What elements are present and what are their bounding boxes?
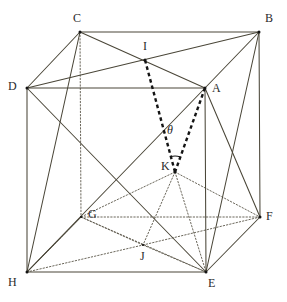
diagonal-J-F xyxy=(143,217,260,245)
vertex-label-A: A xyxy=(212,82,221,94)
vertex-dot-J xyxy=(142,244,144,246)
vertex-label-D: D xyxy=(8,80,17,92)
vertex-label-J: J xyxy=(140,250,145,262)
solid-diagonal-group xyxy=(27,32,260,272)
diagonal-G-J xyxy=(81,217,143,245)
vertex-label-H: H xyxy=(8,276,17,288)
vertex-label-F: F xyxy=(266,210,273,222)
edge-A-B xyxy=(205,32,259,88)
ray-A-K xyxy=(175,88,205,172)
vertex-dot-B xyxy=(258,31,261,34)
diagonal-C-H xyxy=(27,32,80,272)
vertex-dot-G xyxy=(80,216,82,218)
edge-C-D xyxy=(27,32,80,88)
vertex-label-B: B xyxy=(265,12,273,24)
vertex-label-K: K xyxy=(161,160,170,172)
diagonal-K-J xyxy=(143,172,175,245)
angle-arc xyxy=(171,156,181,157)
angle-theta-label: θ xyxy=(167,124,173,136)
vertex-label-I: I xyxy=(143,40,147,52)
vertex-dot-F xyxy=(259,216,262,219)
vertex-label-C: C xyxy=(73,12,81,24)
vertex-dot-E xyxy=(205,271,208,274)
angle-arc-group xyxy=(171,156,181,157)
vertex-dot-K xyxy=(174,171,177,174)
diagonal-K-E xyxy=(175,172,206,272)
geometry-diagram: CBDAGFHEIJK θ xyxy=(0,0,287,302)
diagonal-K-F xyxy=(175,172,260,217)
emphasis-ray-group xyxy=(145,60,205,172)
diagonal-B-E xyxy=(206,32,259,272)
edge-E-F xyxy=(206,217,260,272)
edge-C-G xyxy=(80,32,81,217)
vertex-dot-H xyxy=(26,271,29,274)
vertex-label-E: E xyxy=(208,277,215,289)
ray-I-K xyxy=(145,60,175,172)
vertex-dot-I xyxy=(144,59,147,62)
vertex-dot-A xyxy=(204,87,207,90)
vertex-dot-D xyxy=(26,87,29,90)
vertex-label-G: G xyxy=(88,208,97,220)
edge-A-E xyxy=(205,88,206,272)
diagonal-H-G xyxy=(27,217,81,272)
edge-B-F xyxy=(259,32,260,217)
vertex-dot-C xyxy=(79,31,82,34)
diagonal-H-J xyxy=(27,245,143,272)
